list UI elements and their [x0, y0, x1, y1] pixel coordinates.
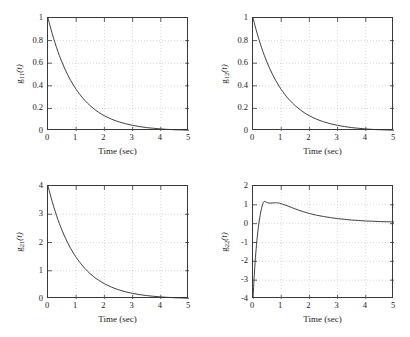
- xtick-g22-0: 0: [250, 301, 254, 310]
- ytick-g22-1: 1: [230, 200, 248, 209]
- ytick-g21-2: 2: [25, 237, 43, 246]
- ytick-g11-3: 0.4: [25, 81, 43, 90]
- yaxis-label-g11-sub: 11: [17, 72, 24, 78]
- ytick-g22-6: -4: [230, 294, 248, 303]
- subplot-g11: 1 0.8 0.6 0.4 0.2 0 0 1 2 3 4 5 Time (se…: [0, 0, 205, 168]
- yaxis-label-g12-main: g: [219, 79, 229, 84]
- plot-svg-g22: [253, 186, 394, 299]
- plot-area-g11: [47, 17, 188, 130]
- subplot-g21: 4 3 2 1 0 0 1 2 3 4 5 Time (sec) g21(t): [0, 168, 205, 337]
- yaxis-label-g11: g11(t): [15, 64, 24, 83]
- xtick-g21-1: 1: [73, 301, 77, 310]
- xtick-g12-5: 5: [391, 133, 395, 142]
- figure-canvas: 1 0.8 0.6 0.4 0.2 0 0 1 2 3 4 5 Time (se…: [0, 0, 410, 337]
- yaxis-label-g22-main: g: [219, 247, 229, 252]
- xtick-g12-0: 0: [250, 133, 254, 142]
- xtick-g11-1: 1: [73, 133, 77, 142]
- yaxis-label-g21-arg: (t): [14, 232, 24, 241]
- plot-area-g21: [47, 185, 188, 298]
- ytick-g21-3: 1: [25, 266, 43, 275]
- yaxis-label-g12-arg: (t): [219, 64, 229, 73]
- xtick-g11-5: 5: [186, 133, 190, 142]
- subplot-g22: 2 1 0 -1 -2 -3 -4 0 1 2 3 4 5 Time (sec)…: [205, 168, 410, 337]
- plot-svg-g11: [48, 18, 189, 131]
- ytick-g22-0: 2: [230, 181, 248, 190]
- xtick-g11-3: 3: [129, 133, 133, 142]
- yaxis-label-g22-sub: 22: [222, 240, 229, 247]
- ytick-g12-3: 0.4: [230, 81, 248, 90]
- ytick-g12-4: 0.2: [230, 103, 248, 112]
- xtick-g21-2: 2: [101, 301, 105, 310]
- xtick-g22-2: 2: [306, 301, 310, 310]
- ytick-g12-5: 0: [230, 126, 248, 135]
- xtick-g22-3: 3: [334, 301, 338, 310]
- ytick-g22-3: -1: [230, 237, 248, 246]
- yaxis-label-g12: g12(t): [220, 64, 229, 84]
- ytick-g21-4: 0: [25, 294, 43, 303]
- xtick-g22-5: 5: [391, 301, 395, 310]
- yaxis-label-g11-arg: (t): [14, 64, 24, 73]
- xaxis-label-g22: Time (sec): [252, 315, 393, 324]
- ytick-g21-1: 3: [25, 209, 43, 218]
- xtick-g11-0: 0: [45, 133, 49, 142]
- xtick-g21-4: 4: [158, 301, 162, 310]
- xtick-g12-3: 3: [334, 133, 338, 142]
- yaxis-label-g21-sub: 21: [17, 240, 24, 247]
- ticks-g12: [253, 18, 394, 131]
- xtick-g21-5: 5: [186, 301, 190, 310]
- ytick-g11-5: 0: [25, 126, 43, 135]
- ytick-g22-4: -2: [230, 256, 248, 265]
- curve-g12: [253, 18, 394, 130]
- ytick-g12-0: 1: [230, 13, 248, 22]
- gridlines-g11: [48, 18, 189, 131]
- yaxis-label-g12-sub: 12: [222, 72, 229, 79]
- yaxis-label-g21-main: g: [14, 247, 24, 252]
- xaxis-label-g12: Time (sec): [252, 147, 393, 156]
- yaxis-label-g21: g21(t): [15, 232, 24, 252]
- xaxis-label-g11: Time (sec): [47, 147, 188, 156]
- ytick-g22-2: 0: [230, 218, 248, 227]
- xtick-g12-2: 2: [306, 133, 310, 142]
- ytick-g12-1: 0.8: [230, 35, 248, 44]
- xtick-g21-0: 0: [45, 301, 49, 310]
- xtick-g22-4: 4: [363, 301, 367, 310]
- gridlines-g12: [253, 18, 394, 131]
- yaxis-label-g22: g22(t): [220, 232, 229, 252]
- curve-g21: [48, 186, 189, 298]
- ytick-g21-0: 4: [25, 181, 43, 190]
- xtick-g12-4: 4: [363, 133, 367, 142]
- xtick-g11-4: 4: [158, 133, 162, 142]
- xtick-g12-1: 1: [278, 133, 282, 142]
- xtick-g11-2: 2: [101, 133, 105, 142]
- ytick-g11-2: 0.6: [25, 58, 43, 67]
- curve-g22: [253, 201, 394, 299]
- subplot-g12: 1 0.8 0.6 0.4 0.2 0 0 1 2 3 4 5 Time (se…: [205, 0, 410, 168]
- ytick-g22-5: -3: [230, 275, 248, 284]
- yaxis-label-g22-arg: (t): [219, 232, 229, 241]
- xtick-g22-1: 1: [278, 301, 282, 310]
- ticks-g11: [48, 18, 189, 131]
- ytick-g11-4: 0.2: [25, 103, 43, 112]
- plot-area-g12: [252, 17, 393, 130]
- plot-area-g22: [252, 185, 393, 298]
- curve-g11: [48, 18, 189, 130]
- ytick-g11-0: 1: [25, 13, 43, 22]
- yaxis-label-g11-main: g: [14, 79, 24, 84]
- plot-svg-g12: [253, 18, 394, 131]
- ytick-g12-2: 0.6: [230, 58, 248, 67]
- xtick-g21-3: 3: [129, 301, 133, 310]
- gridlines-g21: [48, 186, 189, 299]
- xaxis-label-g21: Time (sec): [47, 315, 188, 324]
- ytick-g11-1: 0.8: [25, 35, 43, 44]
- plot-svg-g21: [48, 186, 189, 299]
